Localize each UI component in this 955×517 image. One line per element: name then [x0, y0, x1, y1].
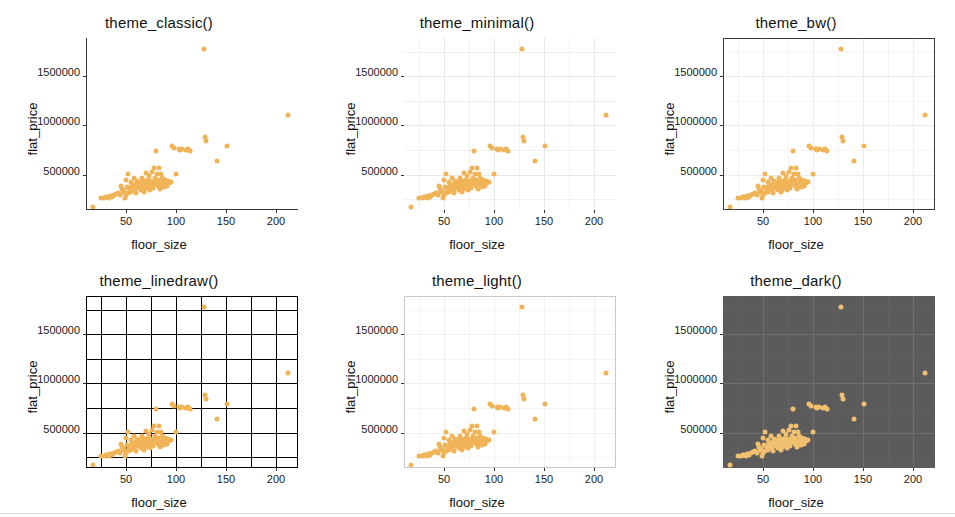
x-tick-label: 50 [120, 473, 132, 485]
x-tick-label: 200 [904, 215, 922, 227]
data-point [520, 46, 525, 51]
data-point [202, 46, 207, 51]
panel-title: theme_linedraw() [0, 272, 318, 289]
plot-area: 5000001000000150000050100150200 [723, 296, 935, 468]
data-point [409, 205, 414, 210]
y-axis-label: flat_price [25, 361, 40, 414]
x-axis-label: floor_size [318, 237, 636, 252]
y-tick-mark [83, 76, 86, 77]
y-tick-label: 1500000 [37, 66, 80, 78]
panel-theme-dark: theme_dark() flat_price floor_size 50000… [637, 258, 955, 516]
x-tick-mark [913, 210, 914, 213]
plot-area: 5000001000000150000050100150200 [86, 38, 298, 210]
y-axis-line [86, 38, 87, 210]
x-tick-mark [126, 210, 127, 213]
x-tick-label: 150 [217, 473, 235, 485]
data-point [839, 304, 844, 309]
gridline [404, 125, 616, 126]
panel-theme-bw: theme_bw() flat_price floor_size 5000001… [637, 0, 955, 258]
y-axis-label: flat_price [25, 103, 40, 156]
x-tick-mark [226, 210, 227, 213]
data-point [472, 148, 477, 153]
gridline [404, 76, 616, 77]
gridline [494, 38, 495, 210]
panel-theme-linedraw: theme_linedraw() flat_price floor_size 5… [0, 258, 318, 516]
plot-area: 5000001000000150000050100150200 [723, 38, 935, 210]
data-point [157, 166, 162, 171]
y-tick-label: 1000000 [674, 115, 717, 127]
y-tick-mark [720, 433, 723, 434]
x-axis-label: floor_size [637, 237, 955, 252]
x-tick-mark [494, 468, 495, 471]
x-tick-mark [763, 210, 764, 213]
panel-theme-classic: theme_classic() flat_price floor_size 50… [0, 0, 318, 258]
data-point [811, 430, 816, 435]
data-point [126, 171, 131, 176]
data-point [763, 429, 768, 434]
y-tick-label: 1000000 [355, 373, 398, 385]
x-tick-mark [863, 468, 864, 471]
gridline [419, 38, 420, 210]
y-tick-mark [83, 175, 86, 176]
panel-title: theme_minimal() [318, 14, 636, 31]
panel-border [404, 296, 616, 468]
y-tick-mark [401, 175, 404, 176]
data-point [794, 424, 799, 429]
x-tick-mark [544, 210, 545, 213]
data-point [225, 144, 230, 149]
gridline [723, 457, 935, 458]
data-point [134, 190, 139, 195]
panel-theme-minimal: theme_minimal() flat_price floor_size 50… [318, 0, 636, 258]
data-point [825, 406, 830, 411]
data-point [492, 172, 497, 177]
x-tick-label: 50 [757, 473, 769, 485]
x-tick-mark [276, 468, 277, 471]
panel-title: theme_bw() [637, 14, 955, 31]
plot-canvas [404, 38, 616, 210]
data-point [188, 148, 193, 153]
x-tick-mark [494, 210, 495, 213]
x-tick-label: 150 [535, 215, 553, 227]
gridline [863, 296, 864, 468]
x-tick-label: 100 [485, 473, 503, 485]
data-point [452, 190, 457, 195]
plot-area: 5000001000000150000050100150200 [404, 38, 616, 210]
x-tick-label: 200 [267, 215, 285, 227]
data-point [543, 144, 548, 149]
panel-title: theme_dark() [637, 272, 955, 289]
y-tick-mark [83, 334, 86, 335]
panel-border [86, 296, 298, 468]
gridline [813, 296, 814, 468]
x-tick-mark [126, 468, 127, 471]
y-axis-label: flat_price [662, 103, 677, 156]
data-point [852, 416, 857, 421]
panel-title: theme_light() [318, 272, 636, 289]
x-tick-label: 50 [438, 473, 450, 485]
y-tick-mark [401, 383, 404, 384]
y-tick-label: 500000 [680, 165, 717, 177]
gridline [404, 199, 616, 200]
gridline [888, 296, 889, 468]
x-tick-label: 200 [585, 473, 603, 485]
x-tick-label: 50 [120, 215, 132, 227]
plot-canvas [86, 38, 298, 210]
figure-canvas: theme_classic() flat_price floor_size 50… [0, 0, 955, 517]
x-tick-label: 150 [854, 215, 872, 227]
data-point [806, 438, 811, 443]
data-point [923, 371, 928, 376]
data-point [169, 180, 174, 185]
y-tick-mark [720, 125, 723, 126]
x-tick-label: 100 [804, 473, 822, 485]
y-tick-mark [720, 76, 723, 77]
y-tick-label: 1500000 [355, 66, 398, 78]
y-tick-label: 1000000 [37, 115, 80, 127]
gridline [404, 175, 616, 176]
data-point [444, 171, 449, 176]
plot-area: 5000001000000150000050100150200 [86, 296, 298, 468]
x-tick-label: 100 [167, 215, 185, 227]
data-point [604, 113, 609, 118]
y-tick-label: 500000 [43, 165, 80, 177]
y-tick-label: 1500000 [674, 324, 717, 336]
data-point [286, 113, 291, 118]
footer-divider [0, 513, 955, 514]
